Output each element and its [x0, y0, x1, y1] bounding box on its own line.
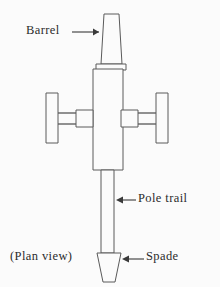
left-wheel-shape — [46, 93, 58, 143]
pole-trail-label: Pole trail — [138, 192, 187, 205]
plan-view-diagram: Barrel Pole trail Spade (Plan view) — [0, 0, 220, 287]
left-hub-shape — [76, 110, 93, 127]
spade-arrow-icon — [122, 256, 129, 263]
barrel-arrow-icon — [93, 29, 99, 36]
right-wheel-shape — [156, 93, 168, 143]
carriage-body-shape — [93, 69, 123, 170]
artillery-plan-view-svg — [0, 0, 220, 287]
barrel-shape — [101, 14, 122, 64]
barrel-label: Barrel — [26, 24, 60, 37]
spade-label: Spade — [146, 250, 179, 263]
pole-trail-arrow-icon — [116, 197, 123, 204]
plan-view-caption: (Plan view) — [10, 250, 72, 263]
right-hub-shape — [121, 110, 138, 127]
pole-trail-shape — [101, 170, 114, 253]
spade-shape — [97, 253, 121, 282]
